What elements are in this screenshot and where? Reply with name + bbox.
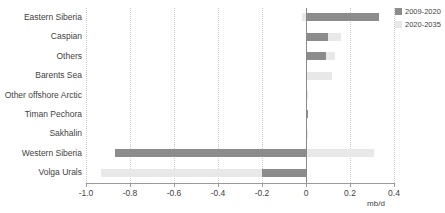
x-tick-label: 0.4 (374, 188, 414, 198)
x-axis-line (86, 183, 394, 184)
gridline (394, 8, 396, 183)
category-label: Barents Sea (0, 71, 82, 80)
x-tick (350, 183, 351, 187)
x-tick-label: 0.2 (330, 188, 370, 198)
x-tick (394, 183, 395, 187)
x-tick-label: 0 (286, 188, 326, 198)
category-label: Others (0, 52, 82, 61)
x-tick-label: -0.6 (154, 188, 194, 198)
bar-series-1 (115, 149, 306, 157)
category-label: Eastern Siberia (0, 13, 82, 22)
category-label: Caspian (0, 32, 82, 41)
plot-area (86, 8, 394, 183)
bar-rows (86, 8, 394, 183)
bar-row (86, 105, 394, 124)
bar-series-1 (306, 52, 326, 60)
zero-axis-line (306, 8, 307, 183)
x-tick (218, 183, 219, 187)
bar-chart: Eastern SiberiaCaspianOthersBarents SeaO… (0, 0, 445, 213)
bar-row (86, 86, 394, 105)
legend: 2009-2020 2020-2035 (395, 7, 441, 33)
x-tick (262, 183, 263, 187)
bar-row (86, 66, 394, 85)
bar-series-1 (306, 33, 328, 41)
legend-label: 2020-2035 (405, 20, 441, 29)
bar-row (86, 144, 394, 163)
legend-swatch-icon (395, 21, 402, 28)
x-tick (130, 183, 131, 187)
bar-series-1 (306, 13, 379, 21)
bar-series-1 (262, 169, 306, 177)
x-tick-label: -0.4 (198, 188, 238, 198)
x-tick (306, 183, 307, 187)
bar-row (86, 47, 394, 66)
x-axis-title: mb/d (354, 199, 398, 208)
category-label: Other offshore Arctic (0, 91, 82, 100)
legend-swatch-icon (395, 8, 402, 15)
bar-row (86, 27, 394, 46)
bar-series-2 (306, 149, 374, 157)
bar-row (86, 164, 394, 183)
x-tick (86, 183, 87, 187)
x-tick (174, 183, 175, 187)
x-tick-label: -0.2 (242, 188, 282, 198)
category-label: Timan Pechora (0, 110, 82, 119)
category-axis-labels: Eastern SiberiaCaspianOthersBarents SeaO… (0, 8, 82, 183)
legend-label: 2009-2020 (405, 7, 441, 16)
category-label: Sakhalin (0, 129, 82, 138)
bar-row (86, 8, 394, 27)
bar-row (86, 125, 394, 144)
bar-series-2 (306, 72, 332, 80)
category-label: Volga Urals (0, 168, 82, 177)
x-tick-label: -0.8 (110, 188, 150, 198)
category-label: Western Siberia (0, 149, 82, 158)
legend-item-series-1: 2009-2020 (395, 7, 441, 16)
legend-item-series-2: 2020-2035 (395, 20, 441, 29)
x-tick-label: -1.0 (66, 188, 106, 198)
